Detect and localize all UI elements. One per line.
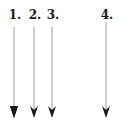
arrow-4: [102, 22, 110, 118]
arrow-2: [30, 27, 38, 118]
arrow-3: [48, 27, 56, 118]
arrows-diagram: [0, 0, 128, 133]
arrow-1: [10, 27, 18, 118]
